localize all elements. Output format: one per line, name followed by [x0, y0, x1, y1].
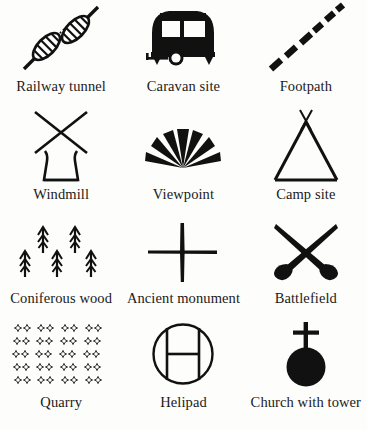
legend-label-battlefield: Battlefield: [275, 291, 337, 316]
helipad-icon: [122, 315, 244, 395]
legend-item-church-with-tower: Church with tower: [245, 315, 367, 429]
coniferous-wood-icon: [0, 215, 122, 291]
map-symbols-legend: Railway tunnel Caravan site: [0, 0, 367, 429]
legend-item-windmill: Windmill: [0, 105, 122, 215]
ancient-monument-icon: [122, 215, 244, 291]
legend-label-quarry: Quarry: [40, 395, 82, 429]
legend-label-windmill: Windmill: [33, 187, 89, 216]
legend-label-caravan-site: Caravan site: [147, 79, 220, 106]
legend-label-ancient-monument: Ancient monument: [127, 291, 240, 316]
legend-item-battlefield: Battlefield: [245, 215, 367, 315]
legend-item-viewpoint: Viewpoint: [122, 105, 244, 215]
legend-label-coniferous-wood: Coniferous wood: [10, 291, 112, 316]
legend-item-coniferous-wood: Coniferous wood: [0, 215, 122, 315]
caravan-site-icon: [122, 0, 244, 79]
legend-label-helipad: Helipad: [160, 395, 207, 429]
camp-site-icon: [245, 105, 367, 187]
viewpoint-icon: [122, 105, 244, 187]
railway-tunnel-icon: [0, 0, 122, 79]
legend-item-helipad: Helipad: [122, 315, 244, 429]
legend-item-footpath: Footpath: [245, 0, 367, 105]
footpath-icon: [245, 0, 367, 79]
legend-item-camp-site: Camp site: [245, 105, 367, 215]
legend-label-camp-site: Camp site: [276, 187, 335, 216]
legend-item-railway-tunnel: Railway tunnel: [0, 0, 122, 105]
legend-item-quarry: Quarry: [0, 315, 122, 429]
quarry-icon: [0, 315, 122, 395]
legend-item-caravan-site: Caravan site: [122, 0, 244, 105]
legend-label-footpath: Footpath: [280, 79, 332, 106]
legend-item-ancient-monument: Ancient monument: [122, 215, 244, 315]
windmill-icon: [0, 105, 122, 187]
legend-label-viewpoint: Viewpoint: [153, 187, 214, 216]
church-with-tower-icon: [245, 315, 367, 395]
legend-label-church-with-tower: Church with tower: [251, 395, 361, 429]
battlefield-icon: [245, 215, 367, 291]
legend-label-railway-tunnel: Railway tunnel: [16, 79, 106, 106]
